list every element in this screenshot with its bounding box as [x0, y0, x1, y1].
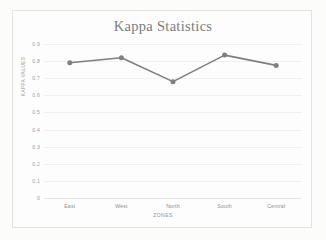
data-point-marker — [119, 55, 124, 60]
y-axis-tick-label: 0.5 — [32, 109, 40, 115]
series-line — [70, 55, 276, 82]
chart-title: Kappa Statistics — [0, 18, 326, 35]
x-axis-tick-label: East — [64, 203, 75, 209]
plot-area: 0.90.80.70.60.50.40.30.20.10 EastWestNor… — [44, 44, 302, 198]
line-series — [44, 44, 302, 198]
x-axis-tick-label: Central — [267, 203, 285, 209]
chart-figure: Kappa Statistics KAPPA VALUES 0.90.80.70… — [0, 0, 326, 240]
y-axis-tick-label: 0.6 — [32, 92, 40, 98]
data-point-marker — [222, 53, 227, 58]
x-axis-tick-label: South — [217, 203, 232, 209]
y-axis-tick-label: 0.7 — [32, 75, 40, 81]
y-axis-title: KAPPA VALUES — [21, 57, 26, 96]
y-axis-tick-label: 0.2 — [32, 161, 40, 167]
y-axis-tick-label: 0.1 — [32, 178, 40, 184]
y-axis-tick-label: 0.9 — [32, 41, 40, 47]
y-axis-tick-label: 0.3 — [32, 144, 40, 150]
x-axis-title: ZONES — [0, 212, 326, 218]
data-point-marker — [274, 63, 279, 68]
data-point-marker — [171, 79, 176, 84]
y-axis-tick-label: 0.8 — [32, 58, 40, 64]
y-axis-tick-label: 0 — [37, 195, 40, 201]
x-axis-tick-label: North — [166, 203, 180, 209]
x-axis-tick-label: West — [115, 203, 128, 209]
y-axis-tick-label: 0.4 — [32, 127, 40, 133]
data-point-marker — [67, 60, 72, 65]
gridline — [44, 198, 302, 199]
